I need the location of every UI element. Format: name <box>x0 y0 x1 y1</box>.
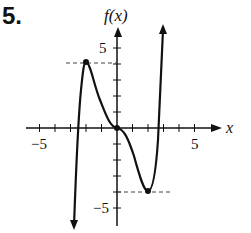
function-graph: f(x) x −5 5 5 −5 <box>0 0 251 233</box>
y-tick-label-5: 5 <box>99 40 107 56</box>
y-axis-label: f(x) <box>104 6 128 25</box>
x-axis-arrow-icon <box>211 124 222 132</box>
origin-point <box>114 125 120 131</box>
curve-up-arrow-icon <box>159 24 167 34</box>
local-min-point <box>145 188 151 194</box>
x-tick-label-5: 5 <box>191 136 199 152</box>
x-tick-label-neg5: −5 <box>31 136 47 152</box>
local-max-point <box>83 59 89 65</box>
curve-down-arrow-icon <box>70 220 78 230</box>
x-axis-label: x <box>225 119 233 136</box>
y-tick-label-neg5: −5 <box>93 200 109 216</box>
y-axis-arrow-icon <box>114 27 122 37</box>
